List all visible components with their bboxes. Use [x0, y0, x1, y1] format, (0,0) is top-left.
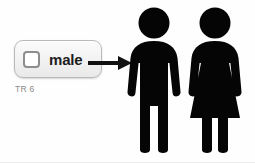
illustration-canvas: male TR 6: [0, 0, 255, 163]
person-woman-icon: [184, 6, 246, 156]
person-man-icon: [126, 6, 182, 156]
checkbox-label: male: [49, 52, 82, 67]
checkbox-input[interactable]: [23, 51, 40, 68]
caption-label: TR 6: [15, 84, 35, 94]
